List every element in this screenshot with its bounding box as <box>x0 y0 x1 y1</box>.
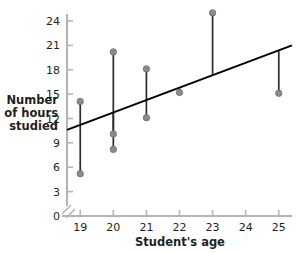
y-tick-label: 21 <box>46 39 60 52</box>
x-tick-label: 24 <box>239 221 253 234</box>
data-point <box>176 89 182 95</box>
data-point <box>77 171 83 177</box>
data-point <box>276 90 282 96</box>
data-point <box>110 49 116 55</box>
y-axis-title-line-3: studied <box>9 119 58 133</box>
data-point <box>110 131 116 137</box>
y-tick-label: 24 <box>46 15 60 28</box>
x-axis-title: Student's age <box>135 235 225 249</box>
x-tick-label: 19 <box>73 221 87 234</box>
x-tick-label: 21 <box>139 221 153 234</box>
y-tick-label: 9 <box>53 137 60 150</box>
y-axis-title: Number of hours studied <box>4 93 58 133</box>
scatter-plot-figure: 03691215182124 19202122232425 Number of … <box>0 0 296 253</box>
y-tick-label: 18 <box>46 64 60 77</box>
chart-canvas: 03691215182124 19202122232425 Number of … <box>0 0 296 253</box>
x-tick-label: 25 <box>272 221 286 234</box>
x-tick-label: 22 <box>173 221 187 234</box>
data-point <box>110 146 116 152</box>
y-tick-label: 0 <box>53 210 60 223</box>
x-tick-label: 20 <box>106 221 120 234</box>
data-point <box>143 66 149 72</box>
y-tick-label: 6 <box>53 161 60 174</box>
data-point <box>143 114 149 120</box>
x-tick-label: 23 <box>206 221 220 234</box>
data-point <box>209 10 215 16</box>
y-axis-title-line-1: Number <box>7 93 59 107</box>
y-axis-title-line-2: of hours <box>4 106 58 120</box>
y-tick-label: 3 <box>53 186 60 199</box>
data-point <box>77 98 83 104</box>
